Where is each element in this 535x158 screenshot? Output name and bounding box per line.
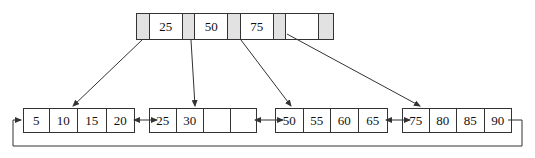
figure-caption-clipped bbox=[0, 152, 535, 158]
root-to-leaf-3-arrow bbox=[241, 40, 291, 106]
bplus-tree-diagram: 25 50 75 5 10 15 20 25 30 50 55 60 65 75… bbox=[0, 0, 535, 158]
root-to-leaf-2-arrow bbox=[191, 40, 195, 106]
wraparound-link bbox=[13, 120, 522, 146]
root-to-leaf-4-arrow bbox=[287, 34, 420, 106]
connector-arrows bbox=[0, 0, 535, 158]
root-to-leaf-1-arrow bbox=[73, 40, 142, 106]
